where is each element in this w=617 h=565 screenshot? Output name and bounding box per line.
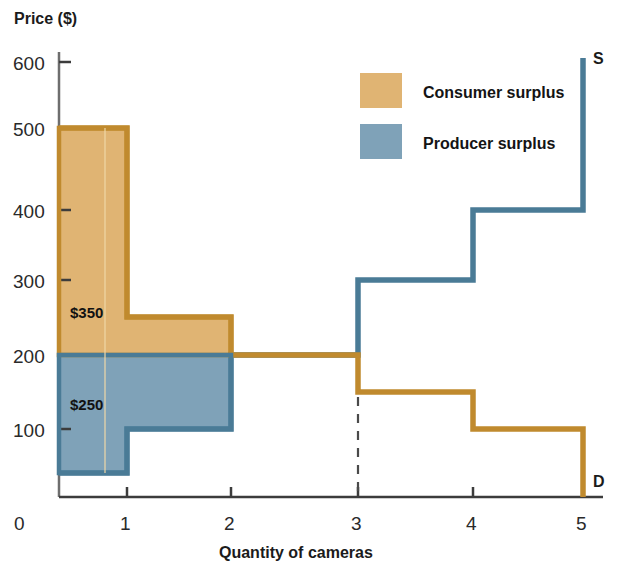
x-tick-label-5: 5 <box>576 513 587 534</box>
y-tick-label-600: 600 <box>13 53 45 74</box>
producer-surplus-region <box>59 355 231 473</box>
supply-curve-label: S <box>593 50 604 67</box>
legend-label-consumer-surplus: Consumer surplus <box>423 84 564 101</box>
demand-curve <box>59 128 583 497</box>
chart-svg: Price ($) 600 500 400 300 200 100 0 1 2 … <box>0 0 617 565</box>
y-tick-label-400: 400 <box>13 201 45 222</box>
consumer-surplus-value-label: $350 <box>70 304 103 321</box>
producer-surplus-value-label: $250 <box>70 396 103 413</box>
x-axis-title: Quantity of cameras <box>219 544 373 561</box>
y-tick-label-300: 300 <box>13 271 45 292</box>
x-tick-label-2: 2 <box>224 513 235 534</box>
surplus-chart: Price ($) 600 500 400 300 200 100 0 1 2 … <box>0 0 617 565</box>
consumer-surplus-swatch <box>360 73 402 108</box>
x-tick-label-0: 0 <box>14 513 25 534</box>
legend-label-producer-surplus: Producer surplus <box>423 135 556 152</box>
y-tick-label-100: 100 <box>13 420 45 441</box>
y-tick-label-500: 500 <box>13 119 45 140</box>
y-tick-label-200: 200 <box>13 346 45 367</box>
producer-surplus-swatch <box>360 124 402 159</box>
demand-curve-label: D <box>593 473 605 490</box>
x-tick-label-4: 4 <box>466 513 477 534</box>
x-tick-label-1: 1 <box>120 513 131 534</box>
legend: Consumer surplus Producer surplus <box>360 73 564 159</box>
x-tick-label-3: 3 <box>351 513 362 534</box>
y-axis-title: Price ($) <box>14 10 77 27</box>
